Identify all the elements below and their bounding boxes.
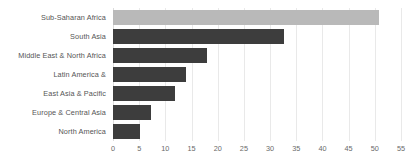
plot-area <box>113 8 401 141</box>
category-label: Middle East & North Africa <box>18 46 106 65</box>
bar-rows <box>113 8 401 141</box>
x-tick-label: 5 <box>137 143 141 155</box>
x-tick-label: 50 <box>371 143 379 155</box>
category-label: East Asia & Pacific <box>43 84 106 103</box>
bar-row <box>113 46 401 65</box>
bar-row <box>113 122 401 141</box>
x-tick-label: 25 <box>240 143 248 155</box>
x-tick-label: 35 <box>292 143 300 155</box>
x-tick-label: 10 <box>161 143 169 155</box>
x-axis-tick-labels: 0510152025303540455055 <box>113 143 401 159</box>
bar <box>113 67 186 82</box>
category-label: Latin America & <box>53 65 106 84</box>
x-tick-label: 30 <box>266 143 274 155</box>
bar-row <box>113 84 401 103</box>
gridline-55 <box>401 8 402 141</box>
bar <box>113 29 284 44</box>
category-label: North America <box>58 122 106 141</box>
category-label: Sub-Saharan Africa <box>41 8 106 27</box>
bar <box>113 124 140 139</box>
category-label: Europe & Central Asia <box>32 103 106 122</box>
bar-row <box>113 103 401 122</box>
x-tick-label: 40 <box>318 143 326 155</box>
category-axis-labels: Sub-Saharan AfricaSouth AsiaMiddle East … <box>0 8 110 141</box>
bar <box>113 105 151 120</box>
bar-row <box>113 65 401 84</box>
x-tick-label: 55 <box>397 143 405 155</box>
x-tick-label: 45 <box>345 143 353 155</box>
category-label: South Asia <box>70 27 106 46</box>
x-tick-label: 15 <box>187 143 195 155</box>
bar-row <box>113 27 401 46</box>
bar-row <box>113 8 401 27</box>
x-tick-label: 20 <box>214 143 222 155</box>
bar <box>113 10 379 25</box>
bar <box>113 86 175 101</box>
x-tick-label: 0 <box>111 143 115 155</box>
bar-chart: Sub-Saharan AfricaSouth AsiaMiddle East … <box>0 0 412 163</box>
bar <box>113 48 207 63</box>
